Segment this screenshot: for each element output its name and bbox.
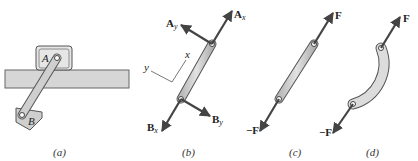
panel-b: Ax Ay Bx By x y (b): [143, 8, 246, 159]
caption-a: (a): [53, 146, 66, 159]
pin-b: [20, 113, 25, 118]
axis-label-x: x: [184, 48, 190, 60]
label-bx: Bx: [147, 121, 158, 135]
label-a: A: [41, 52, 49, 64]
label-neg-f: −F: [246, 124, 259, 136]
arrow-ax: [212, 11, 232, 44]
label-f: F: [403, 12, 410, 24]
label-ax: Ax: [234, 8, 246, 22]
caption-b: (b): [182, 146, 195, 159]
curved-member: [353, 48, 384, 104]
caption-d: (d): [366, 146, 379, 159]
arrow-bx: [162, 99, 181, 131]
arrow-f: [314, 13, 333, 44]
arrow-by: [181, 99, 210, 116]
arrow-ay: [181, 25, 212, 44]
rail: [5, 70, 129, 88]
axis-label-y: y: [143, 61, 149, 73]
arrow-neg-f: [260, 99, 279, 131]
pin-a: [55, 56, 60, 61]
two-force-member-figure: A B (a) Ax Ay Bx By x y (b) F −F (c): [0, 0, 418, 161]
label-neg-f: −F: [319, 126, 332, 138]
arrow-f: [381, 17, 400, 48]
panel-a: A B (a): [5, 46, 129, 159]
label-ay: Ay: [166, 17, 178, 31]
axes-xy: [151, 60, 186, 82]
panel-d: F −F (d): [319, 12, 410, 159]
arrow-neg-f: [333, 104, 353, 133]
caption-c: (c): [289, 146, 302, 159]
member-c: [279, 44, 314, 99]
label-f: F: [335, 9, 342, 21]
label-b: B: [28, 115, 35, 127]
label-by: By: [212, 113, 223, 127]
